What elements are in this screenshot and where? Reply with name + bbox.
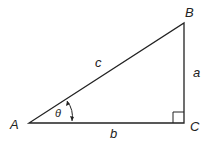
triangle <box>29 23 184 123</box>
vertex-label-b: B <box>185 5 194 20</box>
vertex-label-c: C <box>190 119 200 134</box>
right-triangle-diagram: A B C a b c θ <box>0 0 209 147</box>
angle-label-theta: θ <box>55 107 61 119</box>
side-label-b: b <box>110 126 117 141</box>
side-label-a: a <box>193 65 200 80</box>
right-angle-marker <box>173 112 184 123</box>
arrowhead-bottom <box>70 116 74 121</box>
vertex-label-a: A <box>9 117 19 132</box>
side-label-c: c <box>95 55 102 70</box>
